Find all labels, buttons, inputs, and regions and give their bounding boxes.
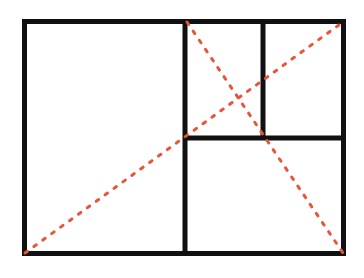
golden-rectangle-diagram: [0, 0, 364, 278]
